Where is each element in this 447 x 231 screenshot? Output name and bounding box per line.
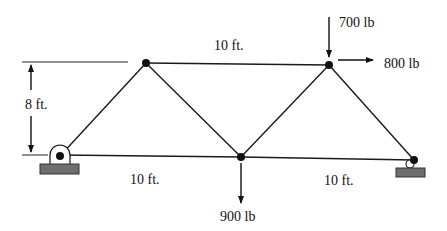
load-900-label: 900 lb	[220, 209, 255, 224]
height-dimension: 8 ft.	[22, 62, 128, 155]
member-bc	[146, 63, 241, 157]
node-e	[410, 156, 418, 164]
node-c	[237, 153, 245, 161]
load-800: 800 lb	[338, 56, 419, 71]
member-ac	[60, 155, 241, 157]
load-800-label: 800 lb	[384, 56, 419, 71]
truss-nodes	[56, 59, 418, 164]
member-de	[329, 65, 414, 160]
member-ab	[60, 63, 146, 156]
member-bd	[146, 63, 329, 65]
pin-base-icon	[40, 164, 79, 174]
load-700-label: 700 lb	[339, 15, 374, 30]
member-ce	[241, 157, 414, 160]
truss-members	[60, 63, 414, 160]
member-cd	[241, 65, 329, 157]
bottom-right-span-label: 10 ft.	[324, 173, 354, 188]
top-span-label: 10 ft.	[214, 38, 244, 53]
bottom-left-span-label: 10 ft.	[130, 172, 160, 187]
node-a	[56, 152, 64, 160]
roller-base-icon	[396, 168, 425, 177]
truss-diagram: 8 ft. 10 ft. 10 ft. 10 ft. 700 lb 80	[0, 0, 447, 231]
node-d	[325, 61, 333, 69]
load-700: 700 lb	[329, 15, 374, 57]
height-label: 8 ft.	[25, 97, 48, 112]
load-900: 900 lb	[220, 163, 255, 224]
roller-support	[396, 160, 425, 177]
node-b	[142, 59, 150, 67]
